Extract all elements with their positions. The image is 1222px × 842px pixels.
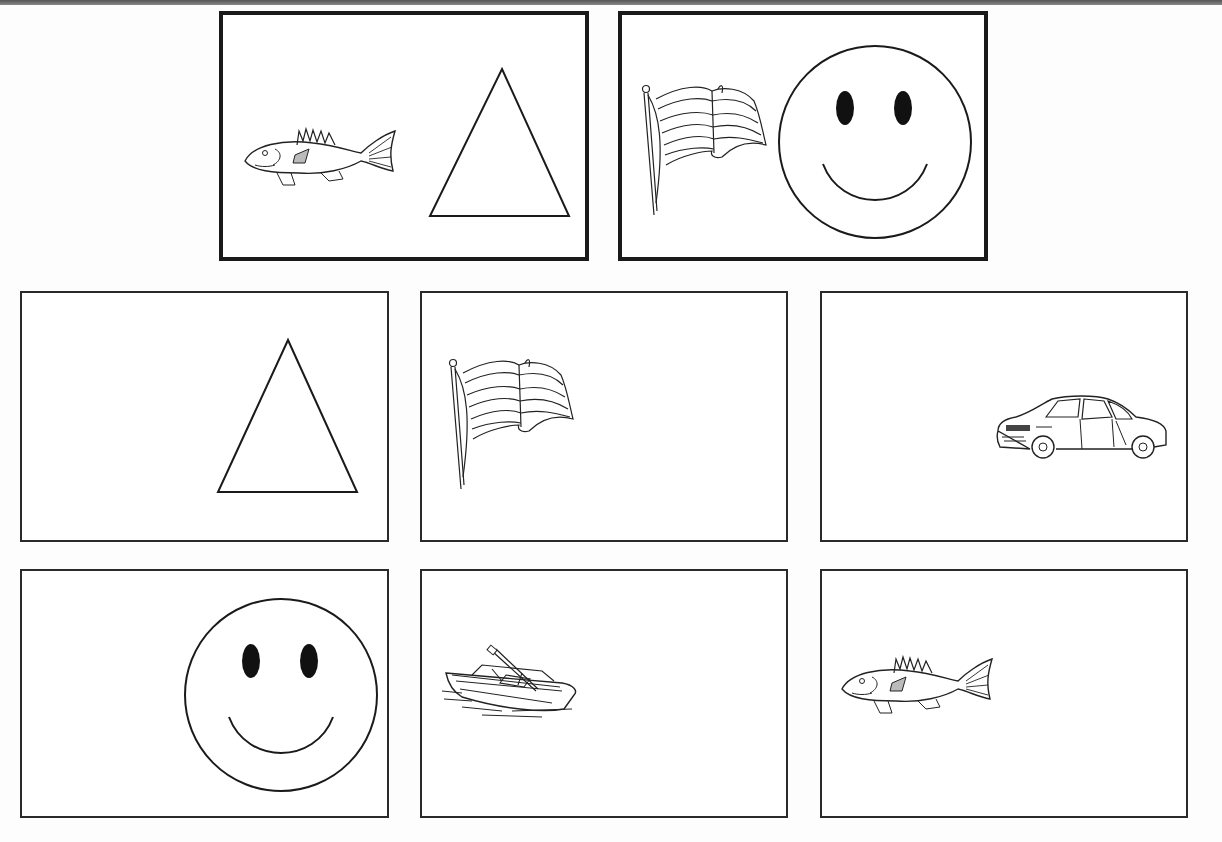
triangle-icon (218, 340, 357, 492)
sample-card-fish-triangle[interactable]: top-left (219, 11, 589, 261)
fish-icon (842, 657, 992, 713)
car-icon (997, 396, 1166, 458)
choice-card-flag[interactable]: flag (420, 291, 788, 542)
boat-icon (442, 645, 576, 717)
flag-icon (450, 360, 574, 490)
sample-card-flag-smiley[interactable]: top-right (618, 11, 988, 261)
choice-card-boat[interactable]: boat (420, 569, 788, 818)
top-border-band (0, 0, 1222, 5)
fish-icon (245, 129, 395, 185)
flag-icon (643, 86, 767, 216)
choice-card-car[interactable]: car (820, 291, 1188, 542)
choice-card-triangle[interactable]: triangle (20, 291, 389, 542)
smiley-face-icon (185, 599, 377, 791)
choice-card-fish[interactable]: fish (820, 569, 1188, 818)
choice-card-smiley-face[interactable]: smiley-face (20, 569, 389, 818)
triangle-icon (430, 69, 569, 216)
smiley-face-icon (779, 46, 971, 238)
